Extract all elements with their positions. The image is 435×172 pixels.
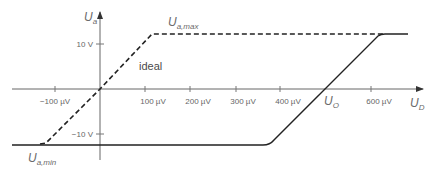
transfer-characteristic-diagram: −100 µV 100 µV 200 µV 300 µV 400 µV 600 … [0, 0, 435, 172]
x-tick-label: 400 µV [275, 97, 301, 106]
y-tick-label: 10 V [77, 40, 94, 49]
x-axis-label: UD [410, 96, 425, 112]
ideal-label: ideal [139, 60, 162, 72]
offset-voltage-label: UO [324, 94, 339, 110]
x-tick-label: 200 µV [185, 97, 211, 106]
y-tick-label: −10 V [72, 130, 94, 139]
y-axis-label: Ua [84, 10, 98, 26]
x-tick-label: 300 µV [230, 97, 256, 106]
ua-min-label: Ua,min [28, 151, 57, 167]
ua-max-label: Ua,max [168, 15, 199, 31]
x-tick-label: −100 µV [40, 97, 71, 106]
x-tick-label: 100 µV [140, 97, 166, 106]
x-tick-label: 600 µV [366, 97, 392, 106]
